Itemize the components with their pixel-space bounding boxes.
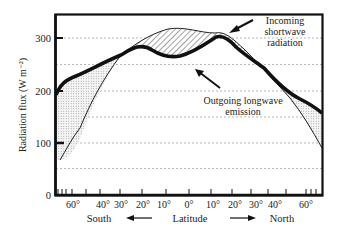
y-tick-300: 300 [35,33,51,44]
x-tick-0: 0° [185,199,194,210]
left-arrow-icon [126,215,152,221]
radiation-balance-chart: 300 200 100 0 Radiation flux (W m⁻²) 60°… [0,0,344,233]
y-axis-title: Radiation flux (W m⁻²) [17,58,29,152]
x-tick-10n: 10° [206,199,220,210]
x-tick-20s: 20° [136,199,150,210]
x-tick-30n: 30° [249,199,263,210]
shortwave-label-line2: shortwave [264,26,306,37]
latitude-label: Latitude [173,213,208,224]
arrow-head-icon [229,25,240,33]
x-tick-30s: 30° [114,199,128,210]
y-tick-200: 200 [35,86,51,97]
x-tick-60s: 60° [66,199,80,210]
x-tick-40n: 40° [268,199,282,210]
x-tick-20n: 20° [228,199,242,210]
x-tick-40s: 40° [96,199,110,210]
south-label: South [87,213,112,224]
right-arrow-icon [230,215,256,221]
x-tick-60n: 60° [299,199,313,210]
longwave-label-line1: Outgoing longwave [203,95,283,106]
shortwave-label-line3: radiation [267,37,303,48]
y-tick-100: 100 [35,138,51,149]
shortwave-label-line1: Incoming [266,15,304,26]
x-tick-10s: 10° [157,199,171,210]
longwave-label-line2: emission [225,106,261,117]
shortwave-annotation: Incoming shortwave radiation [229,15,306,48]
y-tick-0: 0 [46,190,51,201]
north-label: North [270,213,295,224]
